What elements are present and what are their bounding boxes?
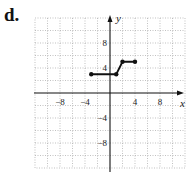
- point-marker-icon: [89, 72, 93, 76]
- x-axis-arrow-icon: [177, 91, 184, 96]
- point-marker-icon: [120, 60, 124, 64]
- y-tick-label: −8: [97, 138, 107, 148]
- y-axis-label: y: [115, 12, 121, 24]
- y-tick-label: 4: [103, 63, 108, 73]
- coordinate-graph: xy −8−44884−4−8: [0, 0, 188, 174]
- x-tick-label: 4: [133, 97, 138, 107]
- y-tick-label: −4: [97, 113, 107, 123]
- y-axis-arrow-icon: [108, 15, 113, 22]
- y-tick-label: 8: [103, 38, 108, 48]
- axes: xy: [34, 12, 185, 172]
- x-tick-label: 8: [158, 97, 163, 107]
- x-axis-label: x: [179, 97, 185, 109]
- x-tick-label: −4: [80, 97, 90, 107]
- point-marker-icon: [114, 72, 118, 76]
- point-marker-icon: [133, 60, 137, 64]
- x-tick-label: −8: [55, 97, 65, 107]
